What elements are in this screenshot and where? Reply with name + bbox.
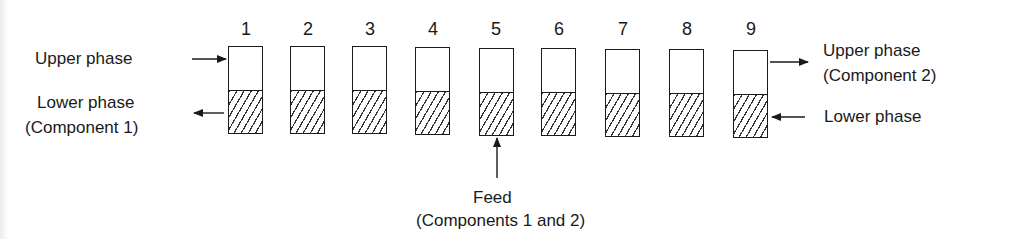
flow-arrows	[0, 0, 1023, 239]
